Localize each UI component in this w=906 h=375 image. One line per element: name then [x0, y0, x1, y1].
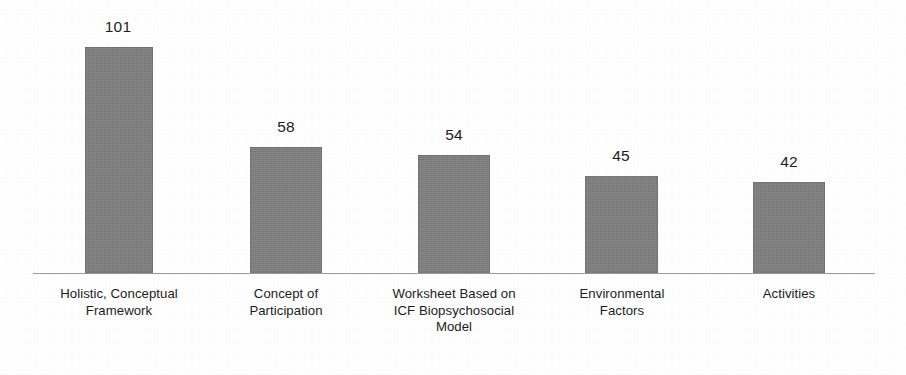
bar-4[interactable]: [585, 176, 658, 273]
category-label-line: Worksheet Based on: [363, 286, 545, 303]
bar-value-label-2: 58: [228, 119, 344, 135]
x-axis-line: [33, 273, 875, 274]
bar-1[interactable]: [85, 47, 153, 273]
bar-value-label-5: 42: [731, 154, 847, 170]
bar-chart-figure: 101 58 54 45 42 Holistic, Conceptual Fra…: [0, 0, 906, 375]
bar-value-label-4: 45: [563, 148, 679, 164]
x-axis-category-label-2: Concept of Participation: [200, 286, 372, 319]
category-label-line: Framework: [29, 303, 209, 320]
x-axis-category-label-3: Worksheet Based on ICF Biopsychosocial M…: [363, 286, 545, 336]
category-label-line: Holistic, Conceptual: [29, 286, 209, 303]
category-label-line: Activities: [703, 286, 875, 303]
plot-area: 101 58 54 45 42 Holistic, Conceptual Fra…: [0, 0, 906, 375]
category-label-line: Participation: [200, 303, 372, 320]
bar-2[interactable]: [250, 147, 322, 273]
x-axis-category-label-5: Activities: [703, 286, 875, 303]
bar-value-label-3: 54: [396, 127, 512, 143]
x-axis-category-label-4: Environmental Factors: [536, 286, 708, 319]
x-axis-category-label-1: Holistic, Conceptual Framework: [29, 286, 209, 319]
bar-3[interactable]: [418, 155, 490, 273]
category-label-line: Factors: [536, 303, 708, 320]
bar-value-label-1: 101: [60, 19, 176, 35]
category-label-line: Model: [363, 319, 545, 336]
category-label-line: ICF Biopsychosocial: [363, 303, 545, 320]
bar-5[interactable]: [753, 182, 825, 273]
category-label-line: Concept of: [200, 286, 372, 303]
category-label-line: Environmental: [536, 286, 708, 303]
